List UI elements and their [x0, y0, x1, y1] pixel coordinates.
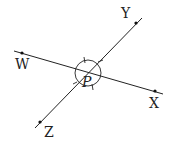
angle-tick-left [73, 82, 77, 84]
line-yz [35, 18, 142, 128]
label-w: W [15, 56, 30, 72]
point-y [134, 21, 137, 24]
label-x: X [149, 95, 159, 111]
label-y: Y [120, 5, 131, 21]
label-p: P [81, 74, 92, 90]
label-z: Z [44, 124, 54, 140]
intersecting-lines-diagram: W X Y Z P [0, 0, 170, 146]
point-z [38, 120, 41, 123]
point-w [20, 51, 23, 54]
point-x [153, 89, 156, 92]
angle-tick-top [84, 57, 85, 63]
